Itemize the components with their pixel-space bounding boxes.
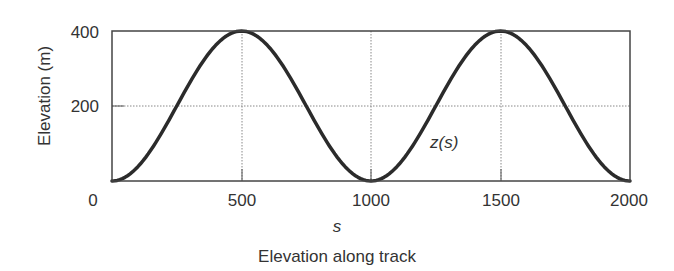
y-axis-label: Elevation (m) — [35, 46, 54, 146]
x-tick-500: 500 — [228, 191, 256, 210]
gridlines — [112, 31, 630, 181]
chart-caption: Elevation along track — [258, 247, 416, 266]
chart: 400 200 0 500 1000 1500 2000 s Elevation… — [0, 0, 674, 271]
y-tick-200: 200 — [71, 97, 99, 116]
y-tick-400: 400 — [71, 23, 99, 42]
x-tick-2000: 2000 — [610, 191, 648, 210]
curve-annotation: z(s) — [429, 133, 458, 152]
x-axis-label: s — [333, 217, 342, 236]
x-tick-1500: 1500 — [482, 191, 520, 210]
x-tick-0: 0 — [88, 191, 97, 210]
x-tick-1000: 1000 — [352, 191, 390, 210]
